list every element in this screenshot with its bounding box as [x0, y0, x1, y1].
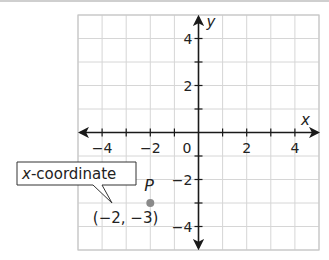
y-tick-label: 2 — [184, 78, 193, 94]
x-coordinate-callout: x-coordinate — [17, 162, 136, 203]
y-tick-label: 4 — [184, 31, 193, 47]
coordinate-plane-figure: x y 0 −4−224 42−2−4 P (−2, −3) x-coordin… — [0, 0, 329, 260]
y-tick-label: −4 — [172, 219, 193, 235]
x-tick-label: 4 — [290, 140, 299, 156]
callout-italic-x: x — [21, 165, 31, 183]
point-p-coordinates: (−2, −3) — [93, 209, 158, 227]
x-axis-label: x — [300, 111, 310, 129]
x-tick-label: −2 — [140, 140, 161, 156]
y-tick-label: −2 — [172, 172, 193, 188]
origin-label: 0 — [183, 140, 192, 156]
point-p-label: P — [144, 176, 154, 195]
callout-suffix: -coordinate — [31, 165, 116, 183]
y-axis-label: y — [206, 13, 217, 31]
point-p-marker — [146, 199, 154, 207]
x-tick-labels: −4−224 — [92, 140, 300, 156]
callout-text: x-coordinate — [21, 165, 116, 183]
x-tick-label: 2 — [242, 140, 251, 156]
x-tick-label: −4 — [92, 140, 113, 156]
